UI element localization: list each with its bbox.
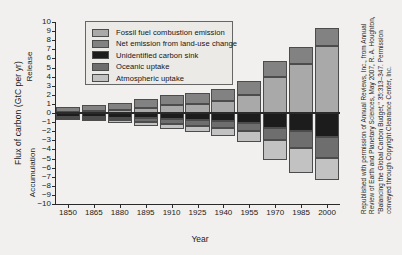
bar-segment — [315, 137, 339, 158]
chart-legend: Fossil fuel combustion emissionNet emiss… — [85, 21, 233, 85]
y-tick-label: −5 — [29, 155, 51, 163]
y-tick-label: 5 — [29, 64, 51, 72]
zero-line — [55, 112, 340, 113]
bar-segment — [263, 140, 287, 160]
bar-segment — [108, 103, 132, 110]
y-tick-label: 0 — [29, 109, 51, 117]
legend-label: Atmospheric uptake — [116, 74, 184, 83]
y-tick-label: −2 — [29, 127, 51, 135]
bar-segment — [82, 119, 106, 121]
x-tick-mark — [327, 205, 328, 208]
bar-segment — [315, 28, 339, 45]
y-tick-label: −6 — [29, 164, 51, 172]
x-tick-mark — [249, 205, 250, 208]
y-tick-label: −7 — [29, 173, 51, 181]
bar-segment — [134, 122, 158, 126]
bar-segment — [160, 95, 184, 105]
legend-swatch — [92, 63, 109, 71]
legend-label: Oceanic uptake — [116, 62, 169, 71]
bar-segment — [237, 81, 261, 95]
bar-segment — [108, 120, 132, 122]
bar-segment — [237, 131, 261, 142]
y-tick-label: −1 — [29, 118, 51, 126]
bar-segment — [263, 128, 287, 141]
bar-segment — [211, 128, 235, 136]
x-tick-label: 2000 — [310, 209, 344, 217]
credit-text: Republished with permission of Annual Re… — [360, 9, 393, 214]
legend-swatch — [92, 51, 109, 59]
bar-segment — [263, 77, 287, 113]
bar-segment — [185, 113, 209, 120]
bar-segment — [185, 126, 209, 132]
legend-label: Net emission from land-use change — [116, 39, 237, 48]
bar-segment — [315, 158, 339, 181]
legend-item: Atmospheric uptake — [92, 74, 184, 83]
bar-segment — [289, 131, 313, 147]
y-tick-label: −3 — [29, 136, 51, 144]
bar-segment — [134, 99, 158, 107]
legend-item: Net emission from land-use change — [92, 39, 237, 48]
y-tick-label: −9 — [29, 191, 51, 199]
legend-item: Fossil fuel combustion emission — [92, 28, 225, 37]
bar-segment — [263, 61, 287, 76]
bar-segment — [289, 47, 313, 63]
legend-item: Oceanic uptake — [92, 62, 169, 71]
x-tick-mark — [94, 205, 95, 208]
bar-segment — [289, 148, 313, 173]
bar-segment — [211, 89, 235, 101]
x-tick-mark — [275, 205, 276, 208]
x-tick-mark — [198, 205, 199, 208]
y-axis-title: Flux of carbon (GtC per yr) — [13, 43, 23, 183]
bar-segment — [160, 124, 184, 129]
legend-label: Fossil fuel combustion emission — [116, 28, 225, 37]
bar-segment — [263, 113, 287, 128]
bar-segment — [315, 113, 339, 137]
y-tick-label: −4 — [29, 145, 51, 153]
bar-segment — [289, 64, 313, 113]
y-tick-label: 6 — [29, 54, 51, 62]
bar-segment — [56, 107, 80, 112]
legend-label: Unidentified carbon sink — [116, 51, 198, 60]
y-tick-label: 7 — [29, 45, 51, 53]
y-tick-label: 9 — [29, 27, 51, 35]
y-tick-label: 8 — [29, 36, 51, 44]
x-tick-mark — [223, 205, 224, 208]
x-tick-mark — [120, 205, 121, 208]
y-tick-label: −8 — [29, 182, 51, 190]
legend-swatch — [92, 74, 109, 82]
y-tick-label: 2 — [29, 91, 51, 99]
y-tick-label: 1 — [29, 100, 51, 108]
y-tick-label: 4 — [29, 73, 51, 81]
bar-segment — [56, 118, 80, 120]
x-axis-line — [55, 204, 340, 205]
legend-swatch — [92, 29, 109, 37]
x-tick-mark — [301, 205, 302, 208]
bar-segment — [237, 123, 261, 131]
carbon-flux-chart: Flux of carbon (GtC per yr) Release Accu… — [0, 0, 402, 255]
y-tick-label: 10 — [29, 18, 51, 26]
legend-swatch — [92, 40, 109, 48]
x-tick-mark — [146, 205, 147, 208]
y-tick-label: −10 — [29, 200, 51, 208]
bar-segment — [237, 113, 261, 123]
legend-item: Unidentified carbon sink — [92, 51, 198, 60]
y-tick-label: 3 — [29, 82, 51, 90]
x-tick-mark — [172, 205, 173, 208]
bar-segment — [237, 95, 261, 113]
bar-segment — [211, 113, 235, 121]
x-tick-mark — [68, 205, 69, 208]
bar-segment — [185, 93, 209, 104]
x-axis-title: Year — [55, 234, 345, 244]
bar-segment — [82, 105, 106, 111]
bar-segment — [289, 113, 313, 131]
bar-segment — [211, 101, 235, 113]
bar-segment — [315, 46, 339, 113]
